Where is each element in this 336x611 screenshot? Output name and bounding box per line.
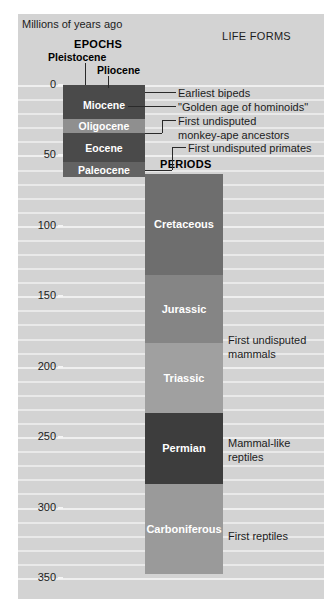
leader-line-monkey-ape-v [162, 120, 163, 133]
leader-line-earliest-bipeds [145, 92, 176, 93]
y-axis-tick-label: 250 [22, 430, 56, 442]
epoch-band-label: Miocene [83, 99, 125, 111]
y-axis-tick [58, 366, 63, 368]
epochs-header: EPOCHS [74, 38, 122, 50]
epoch-band-eocene[interactable]: Eocene [63, 133, 145, 163]
period-band-permian[interactable]: Permian [145, 413, 223, 483]
epoch-callout-pliocene: Pliocene [97, 64, 140, 76]
y-axis-tick-label: 150 [22, 289, 56, 301]
leader-line-primates-v [172, 147, 173, 170]
leader-line-golden-age-hominoids [128, 106, 176, 107]
epoch-band-oligocene[interactable]: Oligocene [63, 119, 145, 133]
annotation-golden-age-hominoids: "Golden age of hominoids" [178, 101, 308, 115]
gridline [18, 578, 324, 580]
y-axis-tick-label: 300 [22, 501, 56, 513]
y-axis-tick-label: 350 [22, 571, 56, 583]
period-band-label: Permian [162, 442, 205, 454]
epoch-band-label: Paleocene [78, 164, 130, 176]
epoch-band-label: Eocene [85, 142, 122, 154]
epoch-band-paleocene[interactable]: Paleocene [63, 162, 145, 176]
annotation-first-reptiles: First reptiles [228, 530, 288, 544]
epoch-callout-pleistocene: Pleistocene [48, 51, 106, 63]
y-axis-title: Millions of years ago [22, 18, 122, 31]
y-axis-tick-label: 200 [22, 360, 56, 372]
y-axis-tick-label: 50 [22, 148, 56, 160]
geologic-timescale-figure: Millions of years ago LIFE FORMS EPOCHS … [0, 0, 336, 611]
leader-line-monkey-ape-h2 [162, 120, 176, 121]
y-axis-tick [58, 507, 63, 509]
y-axis-tick [58, 295, 63, 297]
leader-line-pleistocene [85, 63, 86, 85]
annotation-first-undisputed-mammals: First undisputed mammals [228, 334, 306, 361]
annotation-first-undisputed-primates: First undisputed primates [188, 142, 312, 156]
periods-header: PERIODS [160, 158, 212, 170]
y-axis-tick-label: 0 [22, 78, 56, 90]
annotation-mammal-like-reptiles: Mammal-like reptiles [228, 437, 290, 464]
annotation-earliest-bipeds: Earliest bipeds [178, 87, 250, 101]
period-band-label: Jurassic [162, 303, 207, 315]
life-forms-header: LIFE FORMS [222, 30, 291, 42]
epoch-band-label: Oligocene [79, 120, 130, 132]
leader-line-monkey-ape-h1 [145, 133, 162, 134]
period-band-jurassic[interactable]: Jurassic [145, 275, 223, 343]
leader-line-primates-h1 [145, 170, 172, 171]
period-band-label: Carboniferous [146, 523, 221, 535]
period-band-label: Triassic [164, 372, 205, 384]
period-band-carboniferous[interactable]: Carboniferous [145, 484, 223, 574]
y-axis-tick [58, 436, 63, 438]
leader-line-primates-h2 [172, 147, 186, 148]
leader-line-pliocene [108, 76, 109, 88]
period-band-cretaceous[interactable]: Cretaceous [145, 174, 223, 275]
annotation-first-monkey-ape-ancestors: First undisputed monkey-ape ancestors [178, 115, 289, 142]
period-band-label: Cretaceous [154, 218, 214, 230]
y-axis-tick [58, 225, 63, 227]
y-axis-tick-label: 100 [22, 219, 56, 231]
y-axis-tick [58, 577, 63, 579]
period-band-triassic[interactable]: Triassic [145, 343, 223, 413]
